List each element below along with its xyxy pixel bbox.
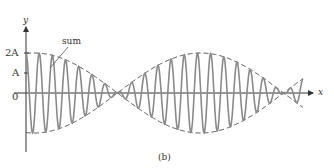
- sum-annotation: sum: [62, 37, 81, 46]
- tick-label-a: A: [12, 68, 19, 78]
- beats-diagram: [0, 0, 334, 168]
- figure-caption: (b): [158, 153, 171, 162]
- tick-label-zero: 0: [12, 92, 18, 102]
- x-axis-label: x: [318, 88, 323, 97]
- y-axis-label: y: [23, 16, 28, 25]
- tick-label-2a: 2A: [5, 48, 19, 58]
